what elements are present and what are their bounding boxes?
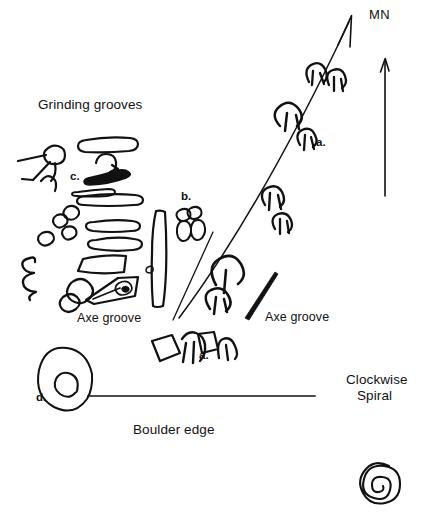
axe-groove-vertical-bar [152,211,167,307]
site-plan-drawing [0,0,434,518]
figure-canvas: Grinding grooves MN Axe groove Axe groov… [0,0,434,518]
groove-oval-2 [53,214,68,227]
groove-slab [78,255,126,273]
label-key-c: c. [70,170,80,183]
groove-oval-3 [62,226,77,239]
label-clockwise-spiral-line2: Spiral [357,388,392,403]
motif-oval-group-b [176,207,205,241]
groove-oval-4 [38,232,54,246]
label-grinding-grooves: Grinding grooves [38,97,142,112]
label-axe-groove-left: Axe groove [77,311,141,325]
label-axe-groove-right: Axe groove [265,310,329,324]
groove-bar-2 [84,170,130,185]
magnetic-north-vertical-arrow [381,59,390,197]
motif-bird-track-8 [206,288,231,314]
clockwise-spiral-glyph [360,463,400,503]
axe-groove-thin-diagonal [173,232,213,320]
motif-bird-track-6 [273,213,292,234]
label-key-d: d. [36,391,46,404]
label-key-a-upper: a. [316,136,326,149]
motif-bird-track-5 [262,186,284,210]
label-key-b: b. [181,190,191,203]
motif-serpentine [22,258,36,301]
motif-hook [96,154,118,172]
groove-bar-6 [88,238,142,251]
label-key-a-lower: a. [199,349,209,362]
magnetic-north-diagonal-line [179,16,352,319]
motif-bird-track-2 [327,69,346,91]
motif-blob-pair [60,279,93,312]
motif-bird-track-10 [218,338,237,360]
label-boulder-edge: Boulder edge [133,422,215,437]
groove-bar-1 [78,137,138,152]
motif-bird-track-3 [275,103,302,131]
motif-anthropomorph [18,146,65,191]
motif-rect-slab [152,335,180,361]
label-magnetic-north: MN [369,8,390,23]
label-clockwise-spiral-line1: Clockwise [346,372,408,387]
motif-bird-track-4 [297,129,316,150]
groove-bar-5 [86,220,140,232]
